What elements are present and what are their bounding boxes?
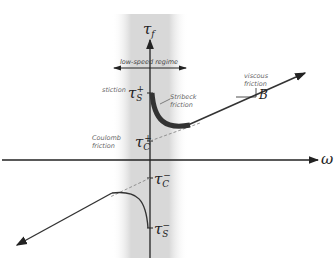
viscous-label: viscous friction xyxy=(244,72,268,88)
tau-s-plus: τS+ xyxy=(128,84,144,103)
tau-s-minus: τS− xyxy=(154,220,170,239)
friction-diagram: τf ω low-speed regime stiction Stribeck … xyxy=(0,0,334,268)
tau-c-plus: τC+ xyxy=(135,133,152,152)
tau-c-minus: τC− xyxy=(154,170,171,189)
viscous-line-negative xyxy=(17,193,112,245)
stribeck-label: Stribeck friction xyxy=(170,93,197,109)
x-axis-label: ω xyxy=(321,150,333,168)
coulomb-label: Coulomb friction xyxy=(92,134,121,150)
slope-label: B xyxy=(259,88,268,102)
regime-label: low-speed regime xyxy=(120,58,178,66)
y-axis-label: τf xyxy=(143,20,155,39)
stiction-label: stiction xyxy=(102,86,126,94)
